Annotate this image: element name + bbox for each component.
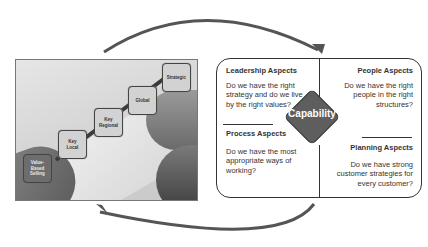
capability-label: Capability — [283, 108, 341, 119]
step-strategic: Strategic — [162, 63, 191, 92]
people-title: People Aspects — [357, 66, 413, 75]
divider-top — [319, 59, 320, 97]
step-value-based-selling: Value- Based Selling — [23, 154, 52, 183]
process-text: Do we have the most appropriate ways of … — [226, 147, 298, 175]
planning-text: Do we have strong customer strategies fo… — [329, 160, 413, 188]
divider-right — [362, 137, 412, 138]
process-title: Process Aspects — [226, 129, 286, 138]
step-key-regional: Key Regional — [94, 108, 123, 137]
planning-title: Planning Aspects — [350, 143, 413, 152]
step-key-local: Key Local — [58, 130, 87, 159]
divider-bottom — [319, 145, 320, 197]
people-text: Do we have the right people in the right… — [333, 81, 413, 109]
step-global: Global — [128, 86, 157, 115]
top-arrow — [104, 20, 318, 52]
bottom-arrow — [100, 204, 314, 229]
divider-left — [223, 124, 273, 125]
leadership-title: Leadership Aspects — [226, 66, 297, 75]
